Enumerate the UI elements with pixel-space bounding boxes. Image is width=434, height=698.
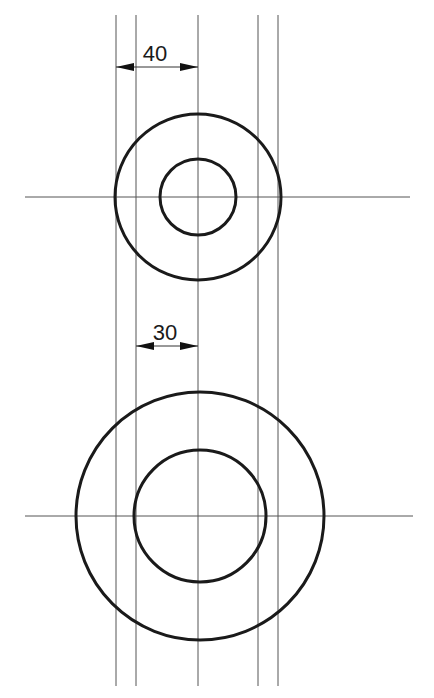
dimension-label: 30 — [153, 320, 177, 345]
technical-drawing: 4030 — [0, 0, 434, 698]
vertical-projection-lines — [116, 15, 278, 686]
dimension-30: 30 — [136, 320, 198, 350]
dimension-40: 40 — [116, 41, 198, 71]
arrow-left-icon — [116, 63, 134, 71]
arrow-left-icon — [136, 342, 154, 350]
dimension-label: 40 — [143, 41, 167, 66]
arrow-right-icon — [180, 63, 198, 71]
horizontal-center-lines — [25, 197, 413, 516]
arrow-right-icon — [180, 342, 198, 350]
dimension-annotations: 4030 — [116, 41, 198, 350]
